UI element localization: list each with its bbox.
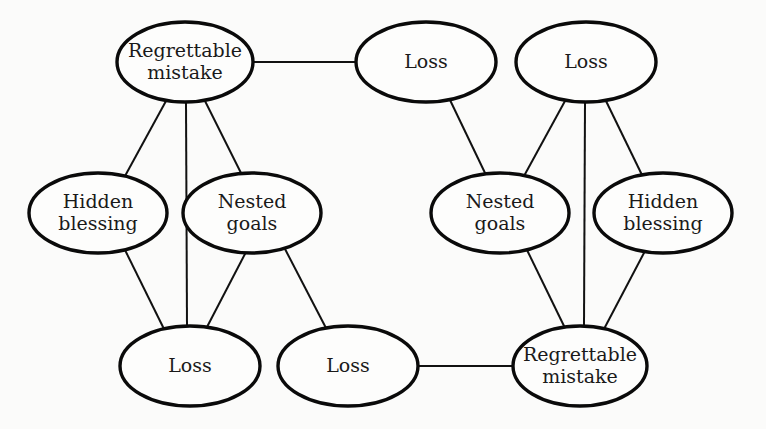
node-rm1: Regrettablemistake [117, 22, 253, 102]
node-label: mistake [542, 365, 618, 387]
node-label: Loss [168, 354, 212, 376]
edge-rm1-hb1 [125, 101, 166, 176]
node-label: Loss [404, 50, 448, 72]
edge-hb1-loss3 [125, 250, 164, 329]
node-rm2: Regrettablemistake [513, 326, 647, 406]
nodes-layer: RegrettablemistakeLossLossHiddenblessing… [29, 22, 732, 406]
edge-loss2-ng2 [524, 101, 565, 176]
node-label: blessing [58, 212, 137, 234]
node-label: Regrettable [523, 343, 637, 365]
node-label: Regrettable [128, 39, 242, 61]
node-label: goals [475, 212, 526, 234]
concept-graph: RegrettablemistakeLossLossHiddenblessing… [0, 0, 766, 429]
node-loss4: Loss [278, 326, 418, 406]
node-label: Nested [466, 190, 535, 212]
edge-hb2-rm2 [604, 251, 645, 329]
node-hb1: Hiddenblessing [29, 173, 167, 253]
node-ng1: Nestedgoals [183, 173, 321, 253]
node-label: Loss [326, 354, 370, 376]
node-label: Nested [218, 190, 287, 212]
edge-ng1-loss4 [285, 249, 326, 328]
node-ng2: Nestedgoals [431, 173, 569, 253]
node-loss1: Loss [356, 22, 496, 102]
node-loss3: Loss [120, 326, 260, 406]
edge-loss2-hb2 [606, 101, 642, 175]
edge-rm1-ng1 [205, 101, 242, 175]
node-label: Loss [564, 50, 608, 72]
node-label: Hidden [628, 190, 698, 212]
edge-ng2-rm2 [527, 250, 565, 328]
node-label: mistake [147, 61, 223, 83]
node-loss2: Loss [516, 22, 656, 102]
edge-loss2-rm2 [584, 102, 585, 326]
edge-loss1-ng2 [450, 100, 486, 175]
node-label: goals [227, 212, 278, 234]
edge-ng1-loss3 [207, 252, 246, 327]
node-label: Hidden [63, 190, 133, 212]
node-hb2: Hiddenblessing [594, 173, 732, 253]
node-label: blessing [623, 212, 702, 234]
